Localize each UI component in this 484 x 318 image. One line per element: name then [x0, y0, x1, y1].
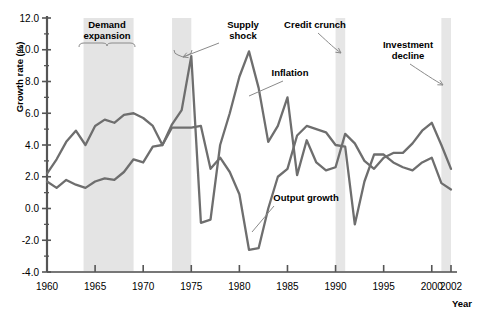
economic-growth-chart: -4.0-2.00.02.04.06.08.010.012.0196019651…: [0, 0, 484, 318]
annotation-label: Investment: [383, 39, 434, 50]
x-tick-label: 1995: [373, 281, 396, 292]
annotation-label: Supply: [227, 19, 259, 30]
chart-canvas: -4.0-2.00.02.04.06.08.010.012.0196019651…: [0, 0, 484, 318]
x-axis-title: Year: [452, 298, 472, 309]
y-axis-title: Growth rate (%): [14, 42, 25, 113]
axis-titles: Growth rate (%)Year: [14, 42, 472, 309]
annotation-leader-line: [410, 64, 443, 85]
annotation-label: shock: [229, 30, 257, 41]
x-tick-label: 1985: [276, 281, 299, 292]
x-tick-label: 1980: [228, 281, 251, 292]
band-demand-expansion: [84, 18, 134, 272]
x-tick-label: 1960: [36, 281, 59, 292]
x-tick-label: 1970: [132, 281, 155, 292]
x-tick-label: 2002: [440, 281, 463, 292]
y-tick-label: 4.0: [25, 140, 39, 151]
band-investment-decline: [441, 18, 451, 272]
annotation-label: Inflation: [272, 67, 309, 78]
annotation-label: Credit crunch: [284, 19, 346, 30]
annotation-leader-line: [249, 81, 283, 96]
y-tick-label: 8.0: [25, 76, 39, 87]
y-tick-label: 2.0: [25, 171, 39, 182]
chart-annotations: DemandexpansionSupplyshockCredit crunchI…: [79, 19, 443, 232]
y-tick-label: 12.0: [20, 13, 40, 24]
y-tick-label: -4.0: [22, 267, 40, 278]
y-tick-label: 6.0: [25, 108, 39, 119]
x-tick-label: 1965: [84, 281, 107, 292]
y-tick-label: 0.0: [25, 203, 39, 214]
x-tick-label: 1975: [180, 281, 203, 292]
annotation-label: decline: [392, 50, 425, 61]
annotation-label: Demand: [88, 19, 126, 30]
y-tick-label: -2.0: [22, 235, 40, 246]
annotation-label: expansion: [84, 30, 131, 41]
x-tick-label: 1990: [324, 281, 347, 292]
annotation-label: Output growth: [273, 192, 339, 203]
